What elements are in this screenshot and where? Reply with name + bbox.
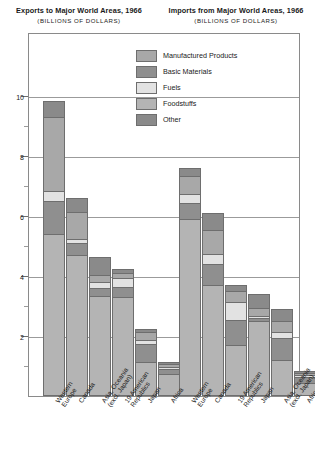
legend-item[interactable]: Basic Materials <box>136 65 286 81</box>
bar-segment <box>43 117 65 191</box>
bar-segment <box>43 234 65 396</box>
bar-segment <box>135 332 157 340</box>
legend-item[interactable]: Foodstuffs <box>136 97 286 113</box>
legend-label: Fuels <box>163 83 181 93</box>
bar-segment <box>112 287 134 298</box>
bar-import[interactable] <box>202 213 224 396</box>
bar-segment <box>89 282 111 288</box>
bar-import[interactable] <box>179 168 201 396</box>
legend: Manufactured ProductsBasic MaterialsFuel… <box>136 49 286 129</box>
bar-segment <box>271 338 293 361</box>
bar-segment <box>135 340 157 344</box>
legend-swatch <box>136 66 157 78</box>
chart-titles: Exports to Major World Areas, 1966 (BILL… <box>0 6 315 32</box>
bar-segment <box>271 332 293 338</box>
legend-swatch <box>136 114 157 126</box>
bar-segment <box>112 273 134 278</box>
bar-export[interactable] <box>89 257 111 397</box>
legend-label: Other <box>163 115 181 125</box>
bar-segment <box>66 243 88 255</box>
bar-segment <box>179 176 201 194</box>
imports-title: Imports from Major World Areas, 1966 <box>160 6 312 16</box>
legend-label: Foodstuffs <box>163 99 196 109</box>
y-tick-label: 10 <box>16 94 24 101</box>
bar-import[interactable] <box>225 285 247 396</box>
legend-swatch <box>136 98 157 110</box>
y-tick-label: 8 <box>20 154 24 161</box>
legend-label: Manufactured Products <box>163 51 237 61</box>
bar-segment <box>202 285 224 396</box>
chart-page: Exports to Major World Areas, 1966 (BILL… <box>0 0 315 464</box>
bar-export[interactable] <box>43 101 65 397</box>
category-labels: WesternEuropeCanadaAsia, Oceania(excl. J… <box>0 398 315 464</box>
bar-segment <box>158 364 180 367</box>
bar-segment <box>202 213 224 230</box>
bar-segment <box>179 219 201 396</box>
bar-segment <box>112 269 134 274</box>
bar-import[interactable] <box>271 309 293 396</box>
bar-segment <box>179 194 201 203</box>
bar-segment <box>202 254 224 265</box>
legend-swatch <box>136 82 157 94</box>
bar-segment <box>179 203 201 220</box>
bar-segment <box>43 201 65 234</box>
y-tick-label: 4 <box>20 274 24 281</box>
bar-segment <box>225 285 247 291</box>
imports-title-block: Imports from Major World Areas, 1966 (BI… <box>160 6 312 26</box>
y-tick-label: 6 <box>20 214 24 221</box>
bar-segment <box>248 294 270 308</box>
legend-item[interactable]: Fuels <box>136 81 286 97</box>
bar-segment <box>179 168 201 176</box>
bar-export[interactable] <box>66 198 88 396</box>
y-tick-label: 2 <box>20 334 24 341</box>
bar-segment <box>225 320 247 346</box>
bar-segment <box>202 230 224 254</box>
bar-segment <box>89 288 111 296</box>
bar-segment <box>248 318 270 321</box>
bar-segment <box>66 255 88 396</box>
bar-segment <box>158 369 180 374</box>
bar-segment <box>43 101 65 118</box>
legend-label: Basic Materials <box>163 67 212 77</box>
bar-segment <box>158 362 180 364</box>
bar-segment <box>225 302 247 320</box>
imports-subtitle: (BILLIONS OF DOLLARS) <box>160 16 312 26</box>
bar-segment <box>135 329 157 332</box>
bar-segment <box>89 275 111 283</box>
bar-segment <box>202 264 224 285</box>
exports-title-block: Exports to Major World Areas, 1966 (BILL… <box>4 6 154 26</box>
legend-item[interactable]: Other <box>136 113 286 129</box>
bar-segment <box>248 308 270 316</box>
bar-segment <box>225 291 247 302</box>
legend-item[interactable]: Manufactured Products <box>136 49 286 65</box>
bar-segment <box>271 309 293 321</box>
bar-segment <box>158 367 180 369</box>
bar-segment <box>248 316 270 318</box>
bar-segment <box>66 212 88 239</box>
bar-segment <box>271 321 293 332</box>
bar-segment <box>66 198 88 212</box>
y-axis: 108642 <box>0 33 28 397</box>
bar-segment <box>66 239 88 244</box>
bar-segment <box>135 344 157 362</box>
bar-segment <box>89 296 111 397</box>
bar-segment <box>43 191 65 202</box>
exports-subtitle: (BILLIONS OF DOLLARS) <box>4 16 154 26</box>
bar-segment <box>112 278 134 287</box>
bar-segment <box>89 257 111 275</box>
legend-swatch <box>136 50 157 62</box>
exports-title: Exports to Major World Areas, 1966 <box>4 6 154 16</box>
